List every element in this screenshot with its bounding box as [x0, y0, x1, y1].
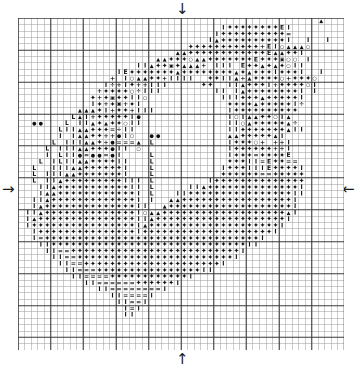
- cross-stitch-chart: ↓ ↑ → ←: [0, 0, 360, 386]
- center-marker-bottom-icon: ↑: [176, 352, 189, 367]
- center-marker-left-icon: →: [2, 182, 15, 197]
- center-marker-top-icon: ↓: [176, 2, 189, 17]
- pattern-grid: [18, 18, 344, 350]
- pattern-grid-canvas: [18, 18, 344, 350]
